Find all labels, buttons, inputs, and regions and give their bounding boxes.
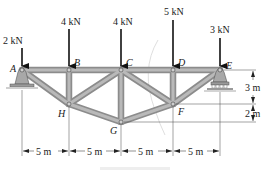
joint-B: [67, 68, 71, 72]
dim-label-CD: 5 m: [138, 146, 154, 157]
dim-label-DE: 5 m: [188, 146, 204, 157]
truss-members: [22, 70, 220, 122]
joint-G: [119, 120, 123, 124]
node-label-A: A: [9, 63, 17, 74]
load-label-A: 2 kN: [3, 35, 23, 46]
load-label-C: 4 kN: [113, 16, 133, 27]
joint-F: [171, 102, 175, 106]
joint-H: [67, 102, 71, 106]
node-label-H: H: [57, 108, 66, 119]
figure-caption: [100, 167, 170, 170]
joint-C: [119, 68, 123, 72]
load-label-D: 5 kN: [164, 6, 184, 17]
dim-label-3m: 3 m: [245, 82, 261, 93]
node-label-B: B: [74, 57, 80, 68]
node-label-F: F: [177, 106, 185, 117]
node-label-C: C: [126, 57, 133, 68]
dim-label-BC: 5 m: [87, 146, 103, 157]
joint-E: [218, 68, 222, 72]
truss-diagram: 2 kN 4 kN 4 kN 5 kN 3 kN A B C D E H G F…: [0, 0, 269, 175]
dim-label-2m: 2 m: [245, 108, 261, 119]
joint-A: [20, 68, 24, 72]
dim-label-AB: 5 m: [36, 146, 52, 157]
load-label-B: 4 kN: [61, 16, 81, 27]
node-label-G: G: [110, 125, 117, 136]
joint-D: [171, 68, 175, 72]
node-label-D: D: [177, 57, 186, 68]
load-label-E: 3 kN: [210, 24, 230, 35]
node-label-E: E: [225, 60, 232, 71]
